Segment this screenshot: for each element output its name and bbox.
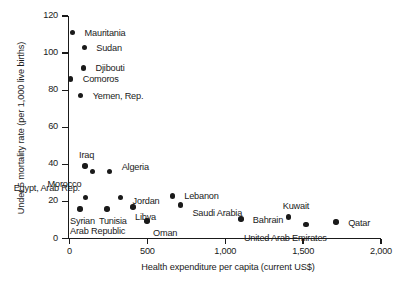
y-tick-mark: [62, 90, 68, 91]
data-point-label: Mauritania: [85, 28, 126, 38]
data-point-marker[interactable]: [90, 169, 95, 174]
x-tick-label: 0: [45, 246, 95, 256]
data-point-label: Egypt, Arab Rep.: [14, 183, 80, 193]
data-point-marker[interactable]: [83, 195, 88, 200]
data-point-marker[interactable]: [104, 206, 109, 211]
data-point-label: Qatar: [348, 218, 370, 228]
data-point-marker[interactable]: [118, 195, 123, 200]
x-axis-title: Health expenditure per capita (current U…: [68, 262, 388, 272]
y-tick-label: 20: [18, 195, 58, 205]
data-point-marker[interactable]: [130, 204, 135, 209]
y-axis-line: [68, 16, 69, 239]
data-point-marker[interactable]: [82, 45, 87, 50]
data-point-marker[interactable]: [238, 216, 243, 221]
data-point-label: Djibouti: [96, 63, 125, 73]
data-point-label: Comoros: [83, 74, 119, 84]
x-tick-mark: [69, 239, 70, 244]
y-tick-label: 100: [18, 47, 58, 57]
data-point-marker[interactable]: [78, 93, 83, 98]
data-point-marker[interactable]: [170, 193, 175, 198]
y-tick-label: 0: [18, 233, 58, 243]
x-tick-label: 500: [122, 246, 172, 256]
data-point-label: Bahrain: [253, 215, 283, 225]
y-tick-label: 40: [18, 158, 58, 168]
data-point-marker[interactable]: [68, 76, 73, 81]
data-point-label: Algeria: [122, 162, 149, 172]
data-point-marker[interactable]: [178, 202, 183, 207]
y-tick-label: 60: [18, 121, 58, 131]
data-point-marker[interactable]: [77, 206, 82, 211]
data-point-marker[interactable]: [333, 219, 338, 224]
data-point-label: Tunisia: [99, 216, 127, 226]
y-tick-mark: [62, 238, 68, 239]
data-point-label: Saudi Arabia: [192, 208, 242, 218]
data-point-marker[interactable]: [107, 169, 112, 174]
x-tick-label: 2,000: [356, 246, 406, 256]
y-tick-mark: [62, 52, 68, 53]
y-tick-mark: [62, 15, 68, 16]
data-point-label: Yemen, Rep.: [93, 91, 144, 101]
x-tick-label: 1,500: [278, 246, 328, 256]
data-point-label: Iraq: [79, 150, 94, 160]
data-point-marker[interactable]: [144, 218, 149, 223]
y-tick-label: 120: [18, 10, 58, 20]
y-tick-mark: [62, 127, 68, 128]
scatter-chart: Under 5 mortality rate (per 1,000 live b…: [0, 0, 408, 290]
data-point-marker[interactable]: [286, 214, 291, 219]
x-tick-label: 1,000: [200, 246, 250, 256]
data-point-marker[interactable]: [303, 222, 308, 227]
data-point-label: Kuwait: [283, 201, 309, 211]
data-point-label: Jordan: [133, 196, 160, 206]
y-tick-mark: [62, 164, 68, 165]
data-point-marker[interactable]: [81, 65, 86, 70]
y-tick-label: 80: [18, 84, 58, 94]
x-tick-mark: [380, 239, 381, 244]
data-point-marker[interactable]: [82, 163, 87, 168]
data-point-label: Sudan: [96, 43, 122, 53]
x-tick-mark: [147, 239, 148, 244]
y-tick-mark: [62, 201, 68, 202]
x-tick-mark: [225, 239, 226, 244]
data-point-label: Lebanon: [184, 191, 218, 201]
data-point-label: United Arab Emirates: [244, 233, 327, 243]
data-point-label: Oman: [153, 228, 177, 238]
data-point-marker[interactable]: [70, 30, 75, 35]
